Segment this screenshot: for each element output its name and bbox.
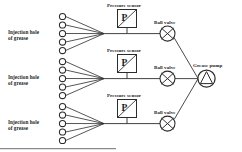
pressure-sensor-symbol-1: P: [118, 10, 137, 28]
injection-hole: [59, 58, 65, 64]
ball-valve-symbol-2: [160, 71, 175, 86]
branch-line: [66, 124, 104, 132]
branch-line: [66, 79, 104, 87]
pressure-sensor-label-3: Pressure sensor: [107, 93, 141, 99]
branch-line: [66, 107, 104, 124]
branch-line: [66, 115, 104, 124]
injection-hole-label-3: Injection hole of grease: [8, 119, 39, 132]
injection-hole-label-line2: of grease: [8, 35, 39, 41]
pressure-sensor-symbol-letter: P: [122, 58, 128, 68]
branch-line: [66, 25, 104, 34]
injection-hole-label-line1: Injection hole: [8, 74, 39, 80]
pressure-sensor-symbol-3: P: [118, 100, 137, 118]
injection-hole-label-line2: of grease: [8, 80, 39, 86]
pressure-sensor-label-1: Pressure sensor: [107, 3, 141, 9]
injection-hole: [59, 67, 65, 73]
grease-pump-label: Grease pump: [193, 63, 222, 69]
injection-hole: [59, 39, 65, 45]
branch-line: [66, 79, 104, 96]
injection-hole-label-1: Injection hole of grease: [8, 29, 39, 42]
injection-hole: [59, 92, 65, 98]
ball-valve-label-3: Ball valve: [154, 110, 175, 116]
ball-valve-symbol-3: [160, 116, 175, 131]
injection-hole: [59, 137, 65, 143]
injection-hole: [59, 13, 65, 19]
injection-hole-group-1: [59, 13, 104, 53]
ball-valve-label-2: Ball valve: [154, 65, 175, 71]
injection-hole-label-line2: of grease: [8, 125, 39, 131]
injection-hole: [59, 129, 65, 135]
injection-hole-group-3: [59, 103, 104, 143]
injection-hole-label-2: Injection hole of grease: [8, 74, 39, 87]
injection-hole: [59, 30, 65, 36]
injection-hole: [59, 75, 65, 81]
injection-hole: [59, 120, 65, 126]
pressure-sensor-symbol-letter: P: [122, 103, 128, 113]
branch-line: [66, 17, 104, 34]
ball-valve-label-1: Ball valve: [154, 20, 175, 26]
injection-hole: [59, 103, 65, 109]
injection-hole: [59, 112, 65, 118]
branch-line: [66, 124, 104, 141]
branch-line: [66, 70, 104, 79]
pressure-sensor-symbol-2: P: [118, 55, 137, 73]
injection-hole-label-line1: Injection hole: [8, 119, 39, 125]
pump-feed-line-1: [174, 38, 198, 79]
injection-hole: [59, 84, 65, 90]
ball-valve-symbol-1: [160, 26, 175, 41]
branch-line: [66, 34, 104, 42]
grease-lubrication-diagram: P P P: [0, 0, 242, 152]
pump-feed-line-3: [174, 79, 198, 120]
branch-line: [66, 34, 104, 51]
pressure-sensor-symbol-letter: P: [122, 13, 128, 23]
injection-hole: [59, 22, 65, 28]
injection-hole-label-line1: Injection hole: [8, 29, 39, 35]
branch-line: [66, 62, 104, 79]
pressure-sensor-label-2: Pressure sensor: [107, 48, 141, 54]
injection-hole-group-2: [59, 58, 104, 98]
injection-hole: [59, 47, 65, 53]
grease-pump-symbol: [198, 70, 215, 87]
